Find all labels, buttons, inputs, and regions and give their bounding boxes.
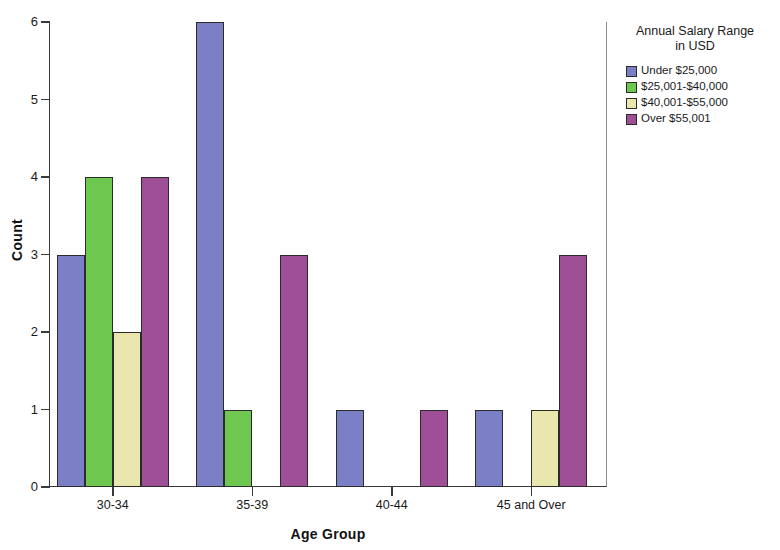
plot-area xyxy=(49,22,607,487)
bar xyxy=(85,177,113,487)
y-axis-tick-label: 0 xyxy=(8,480,38,493)
x-axis-tick xyxy=(531,487,533,496)
x-axis-tick xyxy=(252,487,254,496)
bar xyxy=(113,332,141,487)
y-axis-tick-label: 1 xyxy=(8,403,38,416)
legend-item-label: Under $25,000 xyxy=(641,65,717,77)
bar xyxy=(224,410,252,488)
legend-color-swatch xyxy=(626,82,637,93)
bar xyxy=(336,410,364,488)
bar xyxy=(57,255,85,488)
bar xyxy=(531,410,559,488)
legend-color-swatch xyxy=(626,66,637,77)
legend-title-line-2: in USD xyxy=(612,39,778,54)
legend-item: $40,001-$55,000 xyxy=(626,96,778,111)
y-axis-tick-label: 6 xyxy=(8,15,38,28)
x-axis-tick-label: 45 and Over xyxy=(456,498,606,512)
legend-item-label: Over $55,001 xyxy=(641,113,711,125)
bar xyxy=(420,410,448,488)
bar xyxy=(141,177,169,487)
x-axis-tick-label: 30-34 xyxy=(38,498,188,512)
y-axis-title: Count xyxy=(9,205,25,275)
legend-title: Annual Salary Range in USD xyxy=(612,24,778,55)
legend-item: Over $55,001 xyxy=(626,112,778,127)
y-axis-tick-label: 2 xyxy=(8,325,38,338)
x-axis-tick-label: 35-39 xyxy=(177,498,327,512)
bar-chart: 0123456 Count 30-3435-3940-4445 and Over… xyxy=(0,0,780,550)
x-axis-tick xyxy=(391,487,393,496)
y-axis-tick-label: 4 xyxy=(8,170,38,183)
legend-items: Under $25,000$25,001-$40,000$40,001-$55,… xyxy=(612,64,778,127)
x-axis-title: Age Group xyxy=(49,526,607,542)
x-axis-tick xyxy=(112,487,114,496)
x-axis-tick-label: 40-44 xyxy=(317,498,467,512)
legend-item: Under $25,000 xyxy=(626,64,778,79)
legend-item-label: $25,001-$40,000 xyxy=(641,81,728,93)
bar xyxy=(196,22,224,487)
bar xyxy=(559,255,587,488)
y-axis-tick-label: 5 xyxy=(8,93,38,106)
legend-color-swatch xyxy=(626,98,637,109)
legend-title-line-1: Annual Salary Range xyxy=(612,24,778,39)
legend: Annual Salary Range in USD Under $25,000… xyxy=(612,24,778,128)
legend-item-label: $40,001-$55,000 xyxy=(641,97,728,109)
bar xyxy=(475,410,503,488)
legend-item: $25,001-$40,000 xyxy=(626,80,778,95)
legend-color-swatch xyxy=(626,114,637,125)
bar xyxy=(280,255,308,488)
